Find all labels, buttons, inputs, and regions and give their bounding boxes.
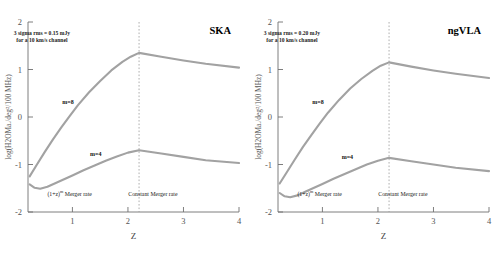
sensitivity-note: 3 sigma rms = 0.15 mJyfor a 10 km/s chan… bbox=[14, 30, 71, 43]
curve-m8 bbox=[280, 62, 489, 183]
merger-rate-suffix: Merger rate bbox=[313, 191, 342, 197]
x-tick-label: 1 bbox=[70, 216, 74, 226]
merger-rate-evolving: (1+z)m Merger rate bbox=[297, 189, 342, 197]
panel-ngvla: -2-10121234Zlog(H2OMa./deg²/100 MHz)ngVL… bbox=[250, 0, 500, 253]
y-tick-label: 2 bbox=[18, 17, 22, 27]
curve-label-m8: m=8 bbox=[312, 99, 323, 105]
figure-root: -2-10121234Zlog(H2OMa./deg²/100 MHz)SKA3… bbox=[0, 0, 500, 253]
sensitivity-note-line1: 3 sigma rms = 0.15 mJy bbox=[14, 30, 71, 36]
x-axis-title: Z bbox=[381, 231, 387, 241]
observatory-title: ngVLA bbox=[448, 25, 482, 36]
plot-ska: -2-10121234Zlog(H2OMa./deg²/100 MHz)SKA3… bbox=[0, 0, 250, 253]
sensitivity-note-line2: for a 10 km/s channel bbox=[266, 37, 318, 43]
merger-rate-base: (1+z) bbox=[47, 191, 60, 198]
y-tick-label: 0 bbox=[18, 112, 22, 122]
sensitivity-note: 3 sigma rms = 0.20 mJyfor a 10 km/s chan… bbox=[264, 30, 321, 43]
x-tick-label: 1 bbox=[320, 216, 324, 226]
merger-rate-evolving: (1+z)m Merger rate bbox=[47, 189, 92, 197]
sensitivity-note-line2: for a 10 km/s channel bbox=[16, 37, 68, 43]
y-tick-label: -2 bbox=[265, 207, 272, 217]
y-tick-label: -2 bbox=[15, 207, 22, 217]
curve-m8 bbox=[30, 53, 239, 177]
x-tick-label: 2 bbox=[126, 216, 130, 226]
y-tick-label: 1 bbox=[268, 65, 272, 75]
merger-rate-base: (1+z) bbox=[297, 191, 310, 198]
curve-label-m4: m=4 bbox=[90, 151, 101, 157]
merger-rate-constant: Constant Merger rate bbox=[128, 191, 178, 197]
y-tick-label: 0 bbox=[268, 112, 272, 122]
x-tick-label: 3 bbox=[181, 216, 185, 226]
y-tick-label: 2 bbox=[268, 17, 272, 27]
sensitivity-note-line1: 3 sigma rms = 0.20 mJy bbox=[264, 30, 321, 36]
y-tick-label: 1 bbox=[18, 65, 22, 75]
x-tick-label: 4 bbox=[487, 216, 492, 226]
curve-label-m4: m=4 bbox=[342, 154, 353, 160]
x-axis-title: Z bbox=[131, 231, 137, 241]
merger-rate-constant: Constant Merger rate bbox=[378, 191, 428, 197]
y-tick-label: -1 bbox=[265, 160, 272, 170]
y-axis-title: log(H2OMa./deg²/100 MHz) bbox=[4, 74, 13, 160]
x-tick-label: 2 bbox=[376, 216, 380, 226]
x-tick-label: 4 bbox=[237, 216, 242, 226]
curve-m4 bbox=[30, 150, 239, 188]
curve-label-m8: m=8 bbox=[62, 99, 73, 105]
y-tick-label: -1 bbox=[15, 160, 22, 170]
y-axis-title: log(H2OMa./deg²/100 MHz) bbox=[254, 74, 263, 160]
panel-ska: -2-10121234Zlog(H2OMa./deg²/100 MHz)SKA3… bbox=[0, 0, 250, 253]
observatory-title: SKA bbox=[209, 25, 231, 36]
merger-rate-suffix: Merger rate bbox=[63, 191, 92, 197]
plot-ngvla: -2-10121234Zlog(H2OMa./deg²/100 MHz)ngVL… bbox=[250, 0, 500, 253]
x-tick-label: 3 bbox=[431, 216, 435, 226]
